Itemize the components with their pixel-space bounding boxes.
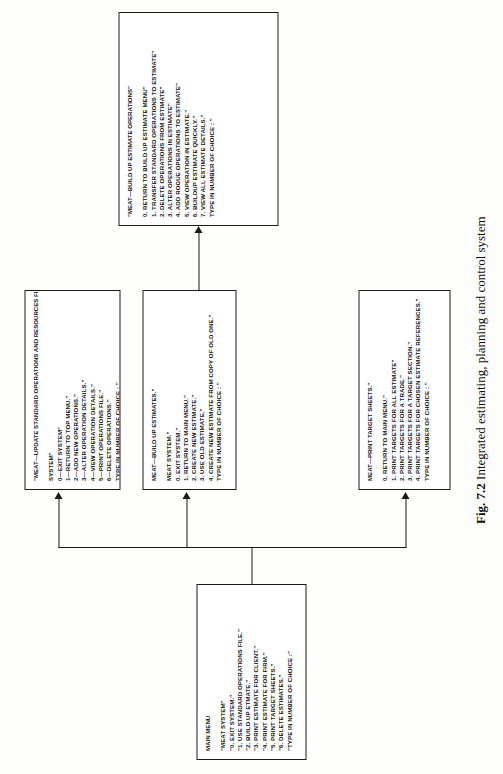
node-main-menu[interactable]: MAIN MENU "MEAT SYSTEM" "0. EXIT SYSTEM.… — [196, 584, 306, 760]
menu-line: 2. CREATE NEW ESTIMATE." — [189, 298, 197, 481]
node-update-standard-operations[interactable]: "MEAT—UPDATE STANDARD OPERATIONS AND RES… — [24, 290, 120, 490]
menu-line: 5—PRINT OPERATIONS FILE." — [96, 298, 104, 481]
node-build-up-estimates[interactable]: MEAT—BUILD UP ESTIMATES." MEAT SYSTEM." … — [142, 290, 236, 490]
connector-to-buildupops — [198, 233, 199, 290]
menu-line: 3—ALTER OPERATION DETAILS." — [79, 298, 87, 481]
menu-line: SYSTEM" — [46, 298, 54, 481]
arrowhead-buildup — [182, 492, 190, 499]
node-print-target-sheets[interactable]: MEAT—PRINT TARGET SHEETS." 0. RETURN TO … — [358, 290, 450, 490]
arrowhead-update — [54, 492, 62, 499]
figure-canvas: MAIN MENU "MEAT SYSTEM" "0. EXIT SYSTEM.… — [0, 0, 503, 774]
menu-line: 1. RETURN TO MAIN MENU." — [181, 298, 189, 481]
menu-line: 2. PRINT TARGETS FOR A TRADE." — [397, 298, 405, 481]
node-build-up-estimates-title: MEAT—BUILD UP ESTIMATES." — [149, 298, 157, 481]
figure-number: Fig. 7.2 — [472, 483, 487, 524]
menu-line: TYPE IN NUMBER OF CHOICE : " — [214, 298, 222, 481]
menu-line: 2—ADD NEW OPERATIONS." — [71, 298, 79, 481]
menu-line: 1. TRANSFER STANDARD OPERATIONS TO ESTIM… — [149, 20, 157, 217]
connector-main-stub — [251, 547, 252, 584]
node-main-menu-title: MAIN MENU — [203, 592, 211, 751]
menu-line: TYPE IN NUMBER OF CHOICE : " — [207, 20, 215, 217]
connector-main-trunk — [58, 547, 406, 548]
menu-line: 3. ALTER OPERATIONS IN ESTIMATE" — [165, 20, 173, 217]
menu-line: 0. EXIT SYSTEM." — [173, 298, 181, 481]
menu-line: 1. PRINT TARGETS FOR ALL ESTIMATE" — [389, 298, 397, 481]
node-print-target-sheets-title: MEAT—PRINT TARGET SHEETS." — [365, 298, 373, 481]
node-build-up-estimate-operations[interactable]: "MEAT—BUILD UP ESTIMATE OPERATIONS" 0. R… — [118, 12, 278, 226]
menu-line: 5. VIEW OPERATION IN ESTIMATE." — [182, 20, 190, 217]
menu-line: 3. PRINT TARGETS FOR A TARGET SECTION." — [405, 298, 413, 481]
node-update-title: "MEAT—UPDATE STANDARD OPERATIONS AND RES… — [31, 298, 39, 481]
menu-line: "3. PRINT ESTIMATE FOR CLIENT." — [251, 592, 259, 751]
menu-line: "5. PRINT TARGET SHEETS." — [268, 592, 276, 751]
menu-line: 0. RETURN TO MAIN MENU." — [380, 298, 388, 481]
menu-line: 4. PRINT TARGETS FOR CHOSEN ESTIMATE REF… — [413, 298, 421, 481]
menu-line: 6. BUILDUP ESTIMATE QUICKLY." — [190, 20, 198, 217]
menu-line: 0—EXIT SYSTEM" — [55, 298, 63, 481]
menu-line: TYPE IN NUMBER OF CHOICE : " — [422, 298, 430, 481]
arrowhead-buildupops — [194, 226, 202, 233]
menu-line: 7. VIEW ALL ESTIMATE DETAILS." — [198, 20, 206, 217]
node-build-up-estimate-operations-title: "MEAT—BUILD UP ESTIMATE OPERATIONS" — [125, 20, 133, 217]
menu-line: 1—RETURN TO TOP MENU." — [63, 298, 71, 481]
menu-line: "MEAT SYSTEM" — [218, 592, 226, 751]
menu-line: 4—VIEW OPERATION DETAILS." — [88, 298, 96, 481]
menu-line: "0. EXIT SYSTEM." — [227, 592, 235, 751]
menu-line: 2. DELETE OPERATIONS FROM ESTIMATE" — [157, 20, 165, 217]
menu-line: MEAT SYSTEM." — [164, 298, 172, 481]
menu-line: "4. PRINT ESTIMATE FOR FIRM." — [260, 592, 268, 751]
menu-line: 3. USE OLD ESTIMATE." — [197, 298, 205, 481]
scanned-page: MAIN MENU "MEAT SYSTEM" "0. EXIT SYSTEM.… — [0, 0, 503, 774]
connector-to-update — [58, 499, 59, 548]
connector-to-print — [405, 499, 406, 548]
figure-caption: Fig. 7.2 Integrated estimating, planning… — [472, 216, 488, 524]
menu-line: TYPE IN NUMBER OF CHOICE : " — [113, 298, 120, 481]
menu-line: "1. USE STANDARD OPERATIONS FILE." — [235, 592, 243, 751]
menu-line: "2. BUILD UP ETMATE." — [243, 592, 251, 751]
menu-line: "6. DELETE ESTIMATES." — [276, 592, 284, 751]
menu-line: "TYPE IN NUMBER OF CHOICE :" — [285, 592, 293, 751]
arrowhead-print — [401, 492, 409, 499]
menu-line: 0. RETURN TO BUILD UP ESTIMATE MENU" — [140, 20, 148, 217]
figure-caption-text: Integrated estimating, planning and cont… — [472, 216, 487, 480]
connector-to-buildup — [186, 499, 187, 548]
menu-line: 6—DELETE OPERATIONS." — [104, 298, 112, 481]
menu-line: 4. ADD ROGUE OPERATIONS TO ESTIMATE" — [173, 20, 181, 217]
menu-line: 4. CREATE NEW ESTIMATE FROM COPY OF OLD … — [206, 298, 214, 481]
